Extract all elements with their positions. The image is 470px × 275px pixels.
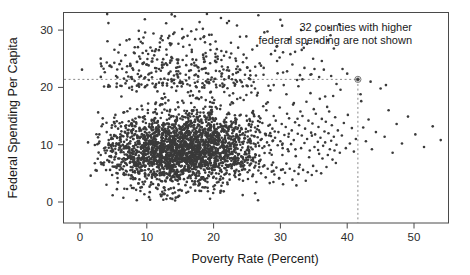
data-point <box>210 164 213 167</box>
data-point <box>109 134 112 137</box>
data-point <box>268 152 271 155</box>
data-point <box>282 183 285 186</box>
data-point <box>269 132 272 135</box>
data-point <box>245 94 248 97</box>
data-point <box>183 178 186 181</box>
data-point <box>190 163 193 166</box>
data-point <box>246 66 249 69</box>
data-point <box>274 119 277 122</box>
data-point <box>141 153 144 156</box>
data-point <box>231 101 234 104</box>
data-point <box>142 162 145 165</box>
data-point <box>211 117 214 120</box>
data-point <box>210 33 213 36</box>
data-point <box>183 109 186 112</box>
data-point <box>249 78 252 81</box>
data-point <box>241 157 244 160</box>
data-point <box>219 162 222 165</box>
data-point <box>107 146 110 149</box>
data-point <box>212 192 215 195</box>
data-point <box>190 125 193 128</box>
data-point <box>171 158 174 161</box>
data-point <box>289 53 292 56</box>
data-point <box>192 159 195 162</box>
data-point <box>177 106 180 109</box>
data-point <box>239 96 242 99</box>
data-point <box>234 114 237 117</box>
data-point <box>147 145 150 148</box>
data-point <box>213 128 216 131</box>
data-point <box>210 155 213 158</box>
data-point <box>105 169 108 172</box>
data-point <box>279 18 282 21</box>
data-point <box>219 84 222 87</box>
data-point <box>108 65 111 68</box>
data-point <box>439 139 442 142</box>
data-point <box>156 178 159 181</box>
data-point <box>163 150 166 153</box>
data-point <box>332 95 335 98</box>
data-point <box>166 110 169 113</box>
data-point <box>151 57 154 60</box>
data-point <box>232 92 235 95</box>
data-point <box>134 153 137 156</box>
data-point <box>161 84 164 87</box>
data-point <box>148 140 151 143</box>
data-point <box>207 112 210 115</box>
data-point <box>173 141 176 144</box>
data-point <box>115 120 118 123</box>
data-point <box>122 151 125 154</box>
data-point <box>282 84 285 87</box>
data-point <box>230 165 233 168</box>
data-point <box>272 84 275 87</box>
data-point <box>182 147 185 150</box>
data-point <box>254 87 257 90</box>
data-point <box>180 85 183 88</box>
data-point <box>146 134 149 137</box>
data-point <box>220 175 223 178</box>
data-point <box>233 156 236 159</box>
data-point <box>138 178 141 181</box>
data-point <box>140 148 143 151</box>
data-point <box>161 136 164 139</box>
data-point <box>258 115 261 118</box>
data-point <box>215 70 218 73</box>
data-point <box>140 75 143 78</box>
data-point <box>128 162 131 165</box>
data-point <box>248 118 251 121</box>
data-point <box>223 130 226 133</box>
data-point <box>169 59 172 62</box>
data-point <box>298 163 301 166</box>
data-point <box>166 151 169 154</box>
data-point <box>239 35 242 38</box>
data-point <box>155 101 158 104</box>
data-point <box>315 112 318 115</box>
data-point <box>223 167 226 170</box>
data-point <box>308 149 311 152</box>
data-point <box>228 69 231 72</box>
data-point <box>176 179 179 182</box>
data-point <box>204 67 207 70</box>
data-point <box>205 72 208 75</box>
data-point <box>170 78 173 81</box>
data-point <box>140 105 143 108</box>
data-point <box>205 140 208 143</box>
data-point <box>200 138 203 141</box>
y-axis-title: Federal Spending Per Capita <box>6 37 20 198</box>
data-point <box>102 164 105 167</box>
data-point <box>111 124 114 127</box>
data-point <box>295 184 298 187</box>
data-point <box>331 158 334 161</box>
data-point <box>239 130 242 133</box>
data-point <box>326 106 329 109</box>
data-point <box>346 72 349 75</box>
data-point <box>311 122 314 125</box>
data-point <box>216 48 219 51</box>
data-point <box>209 135 212 138</box>
data-point <box>207 118 210 121</box>
data-point <box>167 122 170 125</box>
data-point <box>196 147 199 150</box>
data-point <box>208 171 211 174</box>
data-point <box>136 168 139 171</box>
data-point <box>213 188 216 191</box>
